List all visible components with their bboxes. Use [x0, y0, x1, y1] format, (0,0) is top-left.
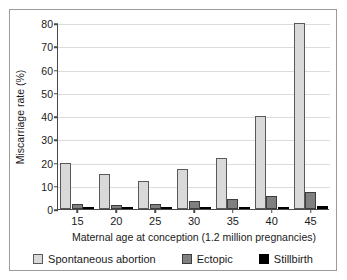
x-tick-label: 40: [266, 215, 278, 227]
x-tick-mark: [193, 209, 195, 213]
bar-20-spontaneous-abortion: [99, 174, 110, 209]
gridline: [58, 117, 330, 118]
x-tick-mark: [271, 209, 273, 213]
x-tick-mark: [77, 209, 79, 213]
y-tick-label: 30: [41, 134, 53, 146]
x-tick-mark: [232, 209, 234, 213]
gridline: [58, 164, 330, 165]
x-tick-label: 30: [188, 215, 200, 227]
legend-label: Ectopic: [197, 253, 233, 265]
legend-swatch-icon: [259, 254, 269, 264]
bar-40-ectopic: [266, 196, 277, 209]
bar-35-ectopic: [227, 199, 238, 209]
gridline: [58, 47, 330, 48]
y-tick-mark: [54, 163, 58, 165]
x-tick-mark: [154, 209, 156, 213]
gridline: [58, 140, 330, 141]
bar-30-ectopic: [189, 201, 200, 209]
legend-entry-spontaneous-abortion: Spontaneous abortion: [33, 253, 156, 265]
y-tick-label: 60: [41, 65, 53, 77]
x-tick-label: 15: [71, 215, 83, 227]
chart-legend: Spontaneous abortionEctopicStillbirth: [10, 249, 336, 269]
bar-15-stillbirth: [83, 207, 94, 209]
bar-30-stillbirth: [200, 207, 211, 209]
bar-20-stillbirth: [122, 207, 133, 209]
y-tick-mark: [54, 140, 58, 142]
bar-45-stillbirth: [317, 206, 328, 209]
bar-45-spontaneous-abortion: [294, 23, 305, 209]
y-tick-mark: [54, 47, 58, 49]
legend-swatch-icon: [182, 254, 192, 264]
chart-figure: 01020304050607080 15202530354045 Miscarr…: [0, 0, 347, 280]
legend-entry-ectopic: Ectopic: [182, 253, 233, 265]
y-tick-mark: [54, 70, 58, 72]
x-axis-title: Maternal age at conception (1.2 million …: [58, 231, 330, 243]
y-tick-mark: [54, 116, 58, 118]
y-tick-mark: [54, 209, 58, 211]
y-axis-title: Miscarriage rate (%): [12, 24, 28, 210]
x-tick-label: 20: [110, 215, 122, 227]
bar-35-stillbirth: [239, 207, 250, 209]
x-tick-label: 45: [304, 215, 316, 227]
y-tick-label: 10: [41, 181, 53, 193]
legend-swatch-icon: [33, 254, 43, 264]
x-tick-mark: [116, 209, 118, 213]
gridline: [58, 24, 330, 25]
bar-40-stillbirth: [278, 207, 289, 209]
y-tick-label: 20: [41, 158, 53, 170]
gridline: [58, 94, 330, 95]
bar-25-spontaneous-abortion: [138, 181, 149, 209]
legend-label: Spontaneous abortion: [48, 253, 156, 265]
x-tick-label: 35: [227, 215, 239, 227]
y-tick-label: 0: [47, 204, 53, 216]
y-tick-mark: [54, 93, 58, 95]
y-tick-label: 70: [41, 41, 53, 53]
y-tick-mark: [54, 23, 58, 25]
y-tick-label: 80: [41, 18, 53, 30]
bar-35-spontaneous-abortion: [216, 158, 227, 209]
gridline: [58, 71, 330, 72]
x-tick-label: 25: [149, 215, 161, 227]
legend-label: Stillbirth: [274, 253, 313, 265]
legend-entry-stillbirth: Stillbirth: [259, 253, 313, 265]
y-tick-label: 40: [41, 111, 53, 123]
y-tick-mark: [54, 186, 58, 188]
bar-30-spontaneous-abortion: [177, 169, 188, 209]
bar-25-stillbirth: [161, 207, 172, 209]
bar-15-spontaneous-abortion: [60, 163, 71, 210]
bar-45-ectopic: [305, 192, 316, 209]
plot-area: 01020304050607080 15202530354045 Miscarr…: [57, 24, 329, 210]
y-tick-label: 50: [41, 88, 53, 100]
bar-40-spontaneous-abortion: [255, 116, 266, 209]
x-tick-mark: [310, 209, 312, 213]
